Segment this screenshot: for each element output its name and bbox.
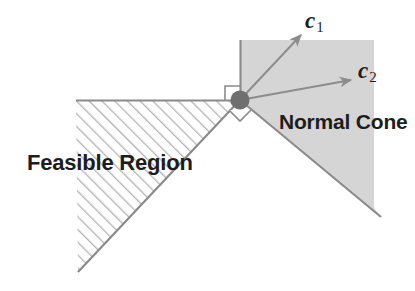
vector-c2-subscript: 2 <box>369 69 377 85</box>
right-angle-marker-lower <box>229 110 251 121</box>
vector-c2-label: c2 <box>358 58 376 84</box>
vector-c2-base: c <box>358 58 368 83</box>
vector-c1-subscript: 1 <box>316 19 324 35</box>
vector-c1-base: c <box>305 8 315 33</box>
feasible-region-label: Feasible Region <box>27 150 193 176</box>
vertex-point <box>231 91 250 110</box>
normal-cone-label: Normal Cone <box>279 110 408 134</box>
vector-c1-label: c1 <box>305 8 323 34</box>
normal-cone-diagram <box>0 0 415 291</box>
